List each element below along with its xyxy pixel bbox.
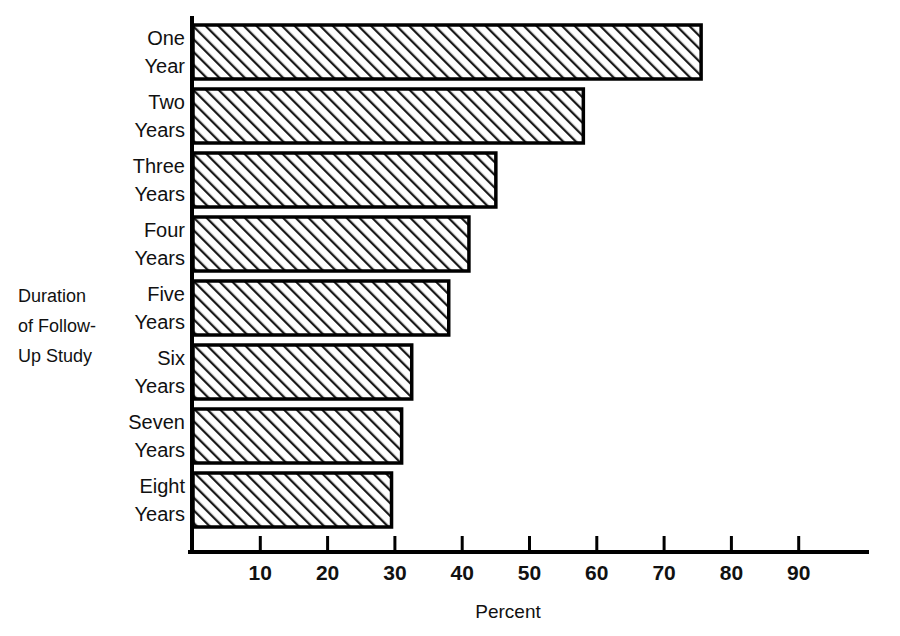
category-label: Two — [148, 91, 185, 113]
tick-label: 30 — [383, 561, 406, 584]
bars-group — [193, 25, 701, 527]
tick-label: 40 — [451, 561, 474, 584]
category-label: Years — [135, 503, 185, 525]
tick-label: 50 — [518, 561, 541, 584]
bar — [193, 281, 449, 335]
chart-container: Durationof Follow-Up Study OneYearTwoYea… — [0, 0, 900, 636]
bar — [193, 345, 412, 399]
category-labels: OneYearTwoYearsThreeYearsFourYearsFiveYe… — [128, 27, 185, 525]
category-label: One — [147, 27, 185, 49]
x-axis-ticks — [260, 536, 798, 550]
bar — [193, 153, 496, 207]
category-label: Year — [145, 55, 186, 77]
x-axis-tick-labels: 102030405060708090 — [249, 561, 811, 584]
category-label: Years — [135, 375, 185, 397]
category-label: Four — [144, 219, 185, 241]
tick-label: 60 — [585, 561, 608, 584]
bar-chart-svg: Durationof Follow-Up Study OneYearTwoYea… — [0, 0, 900, 636]
y-axis-title-line: Duration — [18, 286, 86, 306]
category-label: Five — [147, 283, 185, 305]
category-label: Three — [133, 155, 185, 177]
category-label: Years — [135, 183, 185, 205]
category-label: Years — [135, 119, 185, 141]
tick-label: 90 — [787, 561, 810, 584]
category-label: Six — [157, 347, 185, 369]
x-axis-title: Percent — [475, 601, 541, 622]
category-label: Seven — [128, 411, 185, 433]
bar — [193, 409, 402, 463]
category-label: Years — [135, 439, 185, 461]
category-label: Years — [135, 247, 185, 269]
bar — [193, 25, 701, 79]
category-label: Years — [135, 311, 185, 333]
tick-label: 20 — [316, 561, 339, 584]
y-axis-title-line: Up Study — [18, 346, 92, 366]
bar — [193, 217, 469, 271]
x-axis-title-text: Percent — [475, 601, 541, 622]
category-label: Eight — [139, 475, 185, 497]
bar — [193, 473, 392, 527]
tick-label: 10 — [249, 561, 272, 584]
tick-label: 70 — [652, 561, 675, 584]
y-axis-title: Durationof Follow-Up Study — [18, 286, 96, 366]
tick-label: 80 — [720, 561, 743, 584]
y-axis-title-line: of Follow- — [18, 316, 96, 336]
bar — [193, 89, 583, 143]
